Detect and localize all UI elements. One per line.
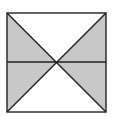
geometry-diagram xyxy=(0,0,113,117)
